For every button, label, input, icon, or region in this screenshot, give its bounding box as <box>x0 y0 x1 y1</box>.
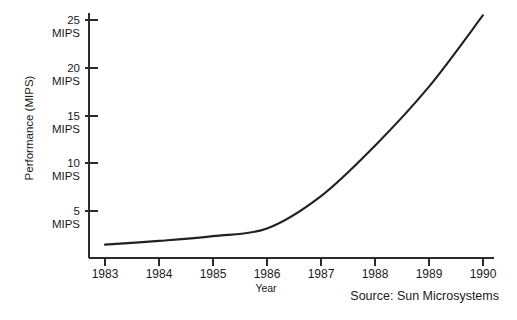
y-tick-label-25-unit: MIPS <box>52 27 80 39</box>
x-tick-label-1987: 1987 <box>308 267 335 281</box>
y-tick-label-15-number: 15 <box>67 110 80 122</box>
x-tick-label-1986: 1986 <box>254 267 281 281</box>
x-tick-label-1988: 1988 <box>362 267 389 281</box>
x-tick-label-1983: 1983 <box>92 267 119 281</box>
y-tick-label-25-number: 25 <box>67 14 80 26</box>
y-axis-title: Performance (MIPS) <box>23 75 35 180</box>
source-note: Source: Sun Microsystems <box>350 289 499 303</box>
x-tick-label-1984: 1984 <box>146 267 173 281</box>
x-axis-title: Year <box>255 282 277 294</box>
y-tick-label-10-unit: MIPS <box>52 170 80 182</box>
y-tick-label-10-number: 10 <box>67 157 80 169</box>
y-tick-label-20-number: 20 <box>67 62 80 74</box>
y-tick-label-15-unit: MIPS <box>52 123 80 135</box>
performance-line-chart: Performance (MIPS) 25 MIPS 20 MIPS 15 MI… <box>0 0 517 320</box>
y-tick-label-5-unit: MIPS <box>52 218 80 230</box>
x-tick-label-1989: 1989 <box>416 267 443 281</box>
chart-page: Performance (MIPS) 25 MIPS 20 MIPS 15 MI… <box>0 0 517 320</box>
y-tick-label-5-number: 5 <box>74 205 80 217</box>
y-tick-label-20-unit: MIPS <box>52 75 80 87</box>
performance-series-line <box>105 15 483 244</box>
x-tick-label-1985: 1985 <box>200 267 227 281</box>
x-tick-label-1990: 1990 <box>470 267 497 281</box>
